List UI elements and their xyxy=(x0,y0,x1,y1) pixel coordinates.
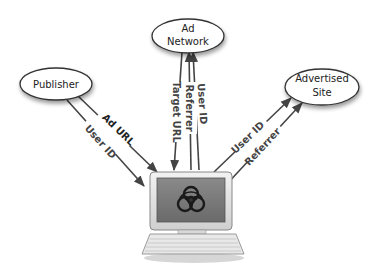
svg-text:Network: Network xyxy=(167,36,209,47)
edge-label-user-id-network: User ID xyxy=(196,83,212,125)
node-advertised-site: Advertised Site xyxy=(285,69,359,105)
edge-label-referrer-network: Referrer xyxy=(184,82,197,134)
node-publisher: Publisher xyxy=(20,68,92,100)
svg-text:User ID: User ID xyxy=(196,83,210,125)
svg-text:Ad: Ad xyxy=(181,23,194,34)
svg-text:Target URL: Target URL xyxy=(171,81,182,143)
node-computer xyxy=(142,172,244,263)
node-ad-network: Ad Network xyxy=(152,19,224,53)
svg-text:Site: Site xyxy=(312,87,331,98)
svg-text:Advertised: Advertised xyxy=(295,73,349,84)
svg-text:Referrer: Referrer xyxy=(184,84,195,131)
flow-diagram: Ad URL User ID Target URL Referrer User … xyxy=(0,0,375,273)
svg-text:Publisher: Publisher xyxy=(33,79,80,90)
edge-label-target-url: Target URL xyxy=(171,81,184,143)
